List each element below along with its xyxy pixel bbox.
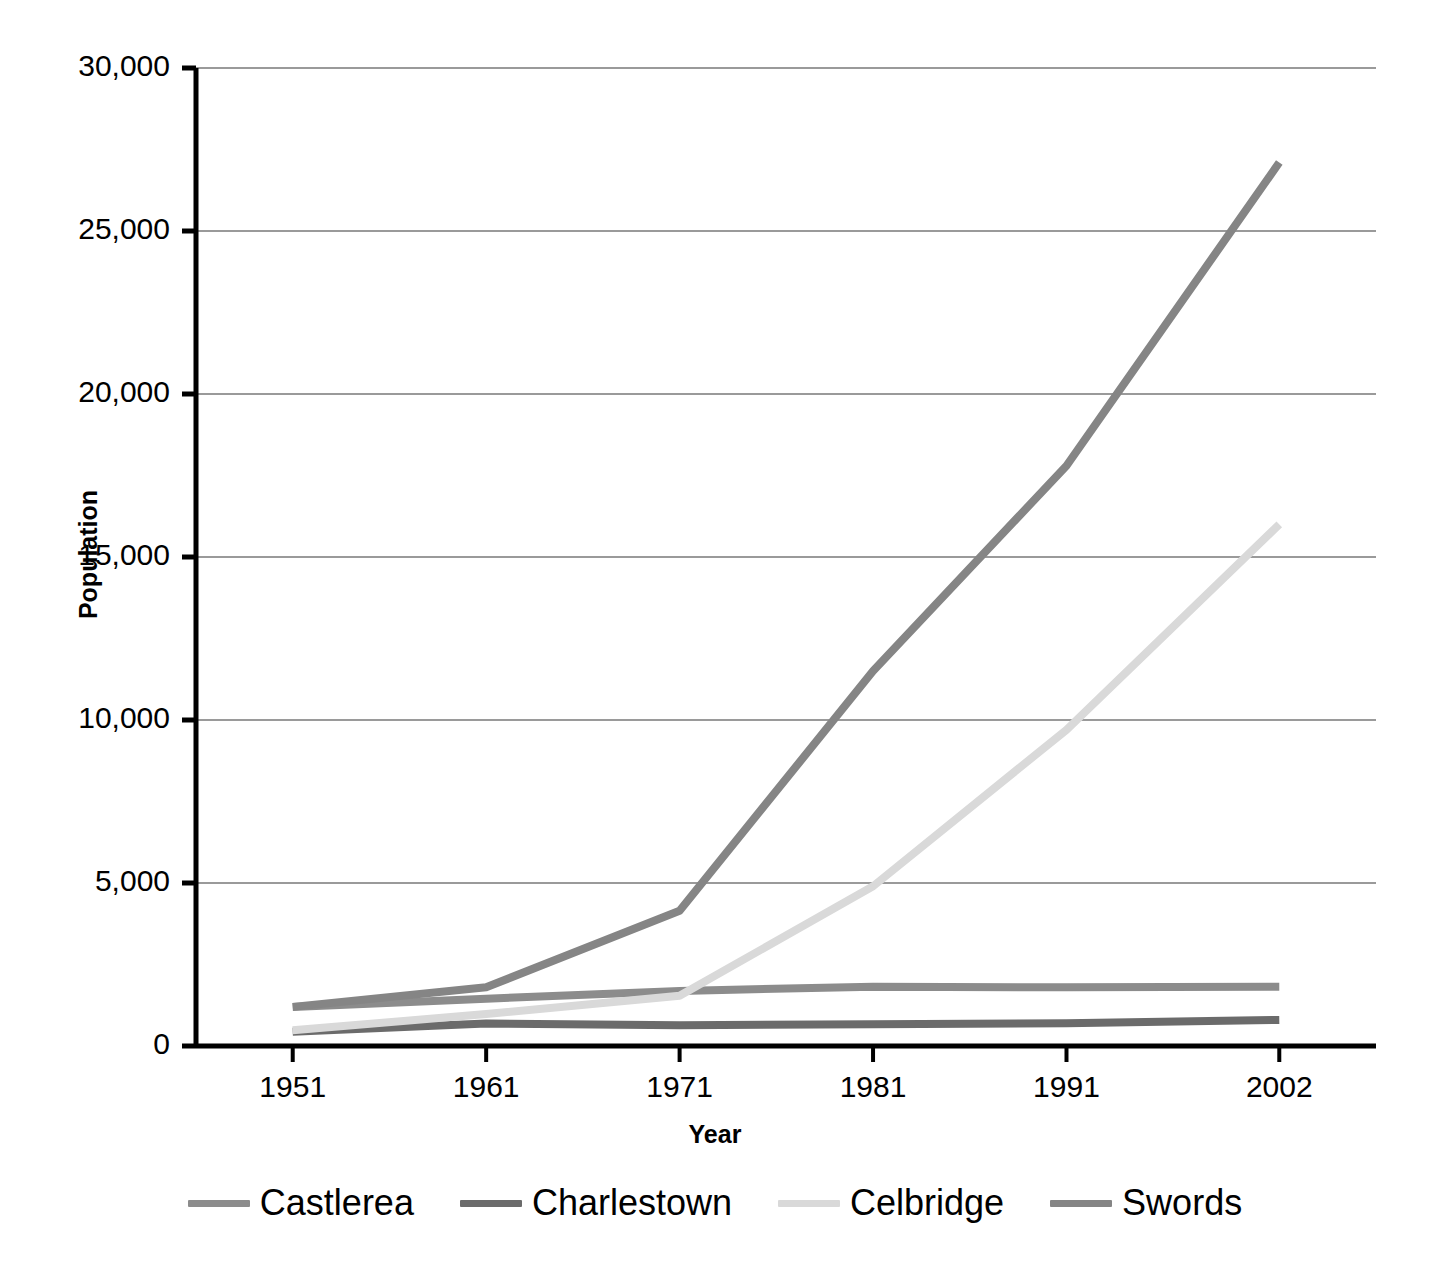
line-chart: Population Year 05,00010,00015,00020,000… [0,0,1430,1273]
legend-label: Celbridge [850,1185,1004,1221]
legend-swatch-icon [460,1200,522,1207]
y-tick-label: 5,000 [0,864,170,898]
y-tick-label: 25,000 [0,212,170,246]
x-tick-label: 1971 [600,1070,760,1104]
y-tick-label: 10,000 [0,701,170,735]
x-tick-label: 1951 [213,1070,373,1104]
x-axis-title: Year [0,1120,1430,1149]
x-tick-label: 2002 [1199,1070,1359,1104]
chart-legend: CastlereaCharlestownCelbridgeSwords [0,1185,1430,1221]
y-tick-label: 0 [0,1027,170,1061]
y-tick-label: 30,000 [0,49,170,83]
y-tick-label: 20,000 [0,375,170,409]
y-tick-label: 15,000 [0,538,170,572]
legend-item-castlerea[interactable]: Castlerea [188,1185,414,1221]
series-lines [293,163,1280,1032]
x-tick-label: 1981 [793,1070,953,1104]
legend-label: Castlerea [260,1185,414,1221]
legend-item-charlestown[interactable]: Charlestown [460,1185,732,1221]
gridlines [196,68,1376,883]
legend-item-celbridge[interactable]: Celbridge [778,1185,1004,1221]
legend-swatch-icon [778,1200,840,1207]
x-tick-label: 1961 [406,1070,566,1104]
x-tick-label: 1991 [986,1070,1146,1104]
legend-item-swords[interactable]: Swords [1050,1185,1242,1221]
series-line-swords [293,163,1280,1007]
legend-label: Charlestown [532,1185,732,1221]
legend-swatch-icon [1050,1200,1112,1207]
legend-label: Swords [1122,1185,1242,1221]
legend-swatch-icon [188,1200,250,1207]
